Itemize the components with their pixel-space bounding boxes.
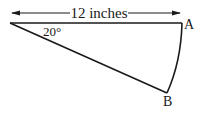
angle-label: 20° bbox=[43, 24, 61, 39]
point-a-label: A bbox=[184, 17, 195, 32]
sector-diagram: 12 inches 20° A B bbox=[0, 0, 201, 114]
radius-to-b bbox=[10, 23, 167, 93]
arrow-right-icon bbox=[172, 11, 181, 16]
point-b-label: B bbox=[163, 94, 172, 109]
arc-ab bbox=[167, 23, 182, 93]
dimension-label: 12 inches bbox=[70, 5, 127, 21]
arrow-left-icon bbox=[11, 11, 20, 16]
